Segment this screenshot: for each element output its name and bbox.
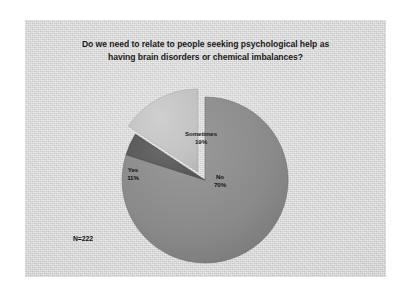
slide-title-line-2: having brain disorders or chemical imbal… xyxy=(41,51,370,64)
slide-title-line-1: Do we need to relate to people seeking p… xyxy=(41,38,370,51)
slide-photo-canvas: Do we need to relate to people seeking p… xyxy=(0,0,413,300)
slide-title: Do we need to relate to people seeking p… xyxy=(41,38,370,64)
sample-size-annotation: N=222 xyxy=(73,235,93,242)
presentation-slide: Do we need to relate to people seeking p… xyxy=(25,20,386,277)
